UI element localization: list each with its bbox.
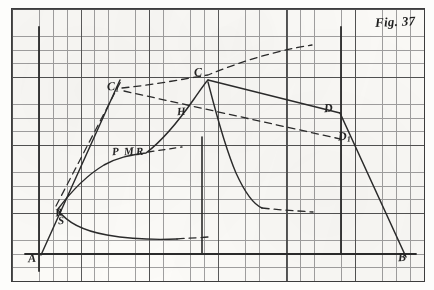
graph-paper-plate: A B C C1 D D1 H P M R R S Fig. 37 xyxy=(11,8,425,282)
label-point-h: H xyxy=(177,106,186,118)
label-point-d1: D1 xyxy=(338,130,352,145)
label-point-r: R xyxy=(136,146,144,157)
label-point-c1: C1 xyxy=(107,80,120,95)
diagram-drawing xyxy=(12,9,424,281)
label-point-b: B xyxy=(398,251,407,264)
dashed-mid-right-continuation xyxy=(262,208,313,212)
label-point-c1-subscript: 1 xyxy=(115,85,120,94)
dashed-lower-left-continuation xyxy=(177,237,208,239)
curve-c-down xyxy=(208,82,262,208)
figure-caption: Fig. 37 xyxy=(374,13,415,31)
label-point-s: S xyxy=(58,215,65,226)
label-point-m: M xyxy=(124,146,135,158)
label-point-a: A xyxy=(28,252,37,265)
label-point-p: P xyxy=(112,146,119,157)
line-c-to-d xyxy=(208,80,340,113)
label-point-d: D xyxy=(324,102,333,115)
label-point-d1-subscript: 1 xyxy=(347,135,352,144)
figure-page: A B C C1 D D1 H P M R R S Fig. 37 xyxy=(0,0,434,290)
curve-s-lower xyxy=(58,210,177,239)
label-point-c: C xyxy=(194,66,203,79)
dashed-line-c1-to-d1 xyxy=(124,91,345,140)
dashed-ray-s-to-c1 xyxy=(56,81,121,206)
